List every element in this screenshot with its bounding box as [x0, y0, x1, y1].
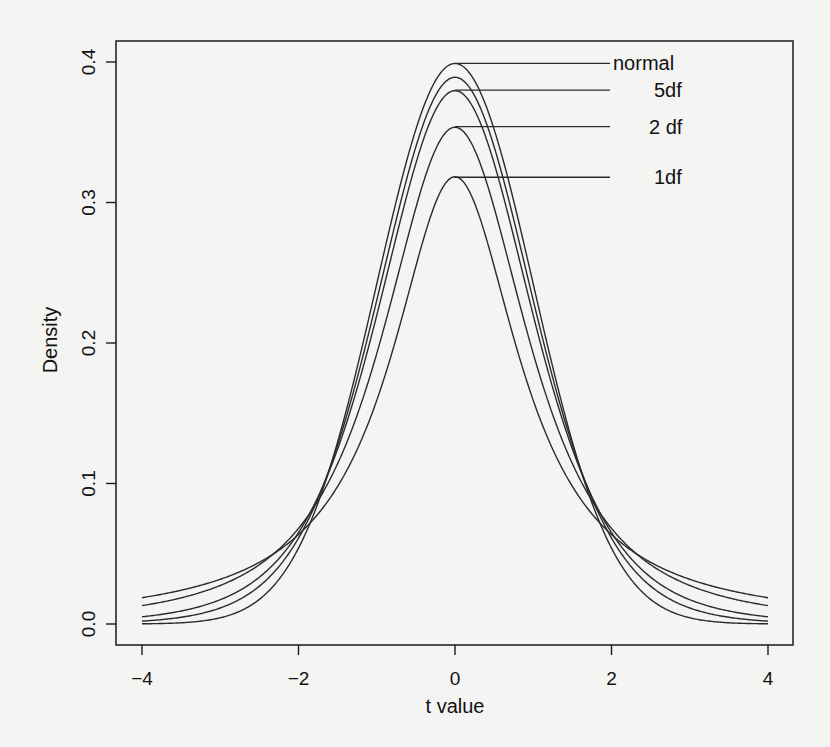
x-axis-title: t value	[426, 695, 485, 717]
y-axis-title: Density	[39, 307, 61, 374]
curve-normal	[142, 63, 768, 623]
y-tick-label: 0.2	[78, 330, 99, 356]
x-tick-label: 2	[606, 668, 617, 689]
t-distribution-density-chart: −4−2024 0.00.10.20.30.4 t value Density …	[0, 0, 830, 747]
y-tick-label: 0.4	[78, 48, 99, 75]
y-tick-label: 0.3	[78, 189, 99, 215]
x-tick-label: 0	[450, 668, 461, 689]
curve-t2df	[142, 127, 768, 605]
curve-label-2df: 2 df	[649, 116, 683, 138]
y-axis: 0.00.10.20.30.4	[78, 48, 116, 637]
curve-labels: normal5df2 df1df	[613, 52, 683, 188]
y-tick-label: 0.1	[78, 470, 99, 496]
x-tick-label: −4	[131, 668, 153, 689]
x-tick-label: 4	[763, 668, 774, 689]
curve-label-normal: normal	[613, 52, 674, 74]
x-axis: −4−2024	[131, 645, 774, 689]
plot-frame	[116, 41, 793, 645]
x-tick-label: −2	[288, 668, 310, 689]
curve-t10df	[142, 77, 768, 621]
curve-label-5df: 5df	[654, 79, 682, 101]
curve-t1df	[142, 177, 768, 598]
density-curves	[142, 63, 768, 623]
curve-label-1df: 1df	[654, 166, 682, 188]
chart-svg: −4−2024 0.00.10.20.30.4 t value Density …	[0, 0, 830, 747]
y-tick-label: 0.0	[78, 611, 99, 637]
